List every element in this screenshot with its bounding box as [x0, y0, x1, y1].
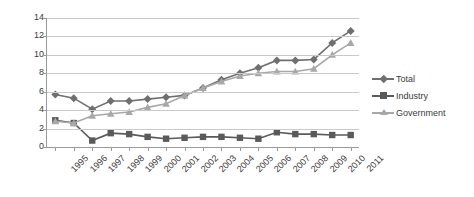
data-point-marker	[125, 97, 133, 105]
x-tick-label: 2009	[328, 153, 349, 174]
data-point-marker	[126, 131, 132, 137]
y-tick-label: 0	[22, 141, 44, 151]
y-axis-tick-labels: 02468101214	[20, 18, 44, 147]
x-tick-mark	[55, 147, 56, 151]
x-tick-mark	[221, 147, 222, 151]
data-point-marker	[255, 136, 261, 142]
y-gridline	[47, 110, 359, 111]
x-tick-mark	[295, 147, 296, 151]
plot-area	[46, 18, 359, 148]
data-point-marker	[237, 135, 243, 141]
x-tick-mark	[203, 147, 204, 151]
x-tick-label: 2005	[254, 153, 275, 174]
x-tick-mark	[166, 147, 167, 151]
legend-label: Industry	[396, 90, 428, 102]
data-point-marker	[70, 94, 78, 102]
x-tick-label: 1999	[143, 153, 164, 174]
x-tick-label: 2001	[180, 153, 201, 174]
data-point-marker	[163, 136, 169, 142]
y-gridline	[47, 73, 359, 74]
legend-item-government[interactable]: Government	[372, 106, 446, 119]
data-point-marker	[347, 39, 355, 46]
y-tick-label: 2	[22, 123, 44, 133]
data-point-marker	[107, 130, 113, 136]
data-point-marker	[329, 132, 335, 138]
x-tick-label: 2011	[364, 153, 385, 174]
y-gridline	[47, 36, 359, 37]
y-tick-mark	[43, 147, 47, 148]
y-tick-mark	[43, 129, 47, 130]
y-gridline	[47, 18, 359, 19]
x-tick-label: 2000	[161, 153, 182, 174]
x-tick-label: 2002	[198, 153, 219, 174]
x-tick-label: 2010	[346, 153, 367, 174]
x-tick-mark	[74, 147, 75, 151]
data-point-marker	[218, 134, 224, 140]
x-tick-label: 2004	[235, 153, 256, 174]
x-tick-mark	[129, 147, 130, 151]
y-tick-mark	[43, 36, 47, 37]
legend-item-total[interactable]: Total	[372, 72, 415, 85]
data-point-marker	[144, 95, 152, 103]
legend-marker-square-icon	[372, 90, 394, 102]
x-tick-mark	[314, 147, 315, 151]
x-tick-label: 2006	[272, 153, 293, 174]
data-point-marker	[292, 131, 298, 137]
data-point-marker	[311, 131, 317, 137]
x-tick-label: 2008	[309, 153, 330, 174]
y-tick-mark	[43, 92, 47, 93]
y-tick-label: 6	[22, 86, 44, 96]
y-tick-label: 12	[22, 30, 44, 40]
data-point-marker	[200, 134, 206, 140]
data-point-marker	[347, 132, 353, 138]
data-point-marker	[347, 27, 355, 35]
chart-legend: TotalIndustryGovernment	[372, 72, 474, 123]
data-point-marker	[274, 129, 280, 135]
x-tick-label: 2007	[291, 153, 312, 174]
y-tick-mark	[43, 18, 47, 19]
data-point-marker	[89, 137, 95, 143]
y-gridline	[47, 129, 359, 130]
y-tick-label: 4	[22, 104, 44, 114]
y-tick-mark	[43, 73, 47, 74]
legend-item-industry[interactable]: Industry	[372, 89, 428, 102]
y-tick-label: 8	[22, 67, 44, 77]
x-tick-mark	[148, 147, 149, 151]
x-tick-mark	[240, 147, 241, 151]
x-tick-label: 1995	[69, 153, 90, 174]
x-tick-mark	[258, 147, 259, 151]
x-tick-label: 2003	[217, 153, 238, 174]
legend-label: Total	[396, 73, 415, 85]
x-tick-mark	[332, 147, 333, 151]
y-tick-label: 14	[22, 12, 44, 22]
y-tick-mark	[43, 55, 47, 56]
legend-marker-triangle-icon	[372, 107, 394, 119]
x-tick-mark	[185, 147, 186, 151]
x-tick-mark	[277, 147, 278, 151]
y-gridline	[47, 55, 359, 56]
y-tick-mark	[43, 110, 47, 111]
y-tick-label: 10	[22, 49, 44, 59]
legend-label: Government	[396, 107, 446, 119]
data-point-marker	[181, 135, 187, 141]
data-point-marker	[144, 134, 150, 140]
x-tick-mark	[351, 147, 352, 151]
x-tick-label: 1996	[88, 153, 109, 174]
series-government	[52, 39, 355, 126]
legend-marker-diamond-icon	[372, 73, 394, 85]
x-tick-label: 1997	[106, 153, 127, 174]
x-tick-mark	[111, 147, 112, 151]
data-point-marker	[273, 56, 281, 64]
chart-container: Billions (US$) 02468101214 1995199619971…	[0, 0, 474, 197]
series-industry	[52, 117, 354, 144]
y-gridline	[47, 92, 359, 93]
data-point-marker	[291, 56, 299, 64]
x-tick-mark	[92, 147, 93, 151]
data-point-marker	[107, 97, 115, 105]
x-tick-label: 1998	[125, 153, 146, 174]
